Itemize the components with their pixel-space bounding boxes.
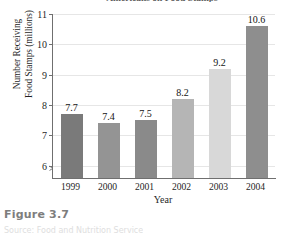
gridline (53, 135, 275, 136)
x-axis-tick-label: 2004 (236, 181, 276, 192)
y-axis-tick-label: 7 (42, 130, 47, 141)
y-axis-tick (49, 44, 53, 45)
bar-value-label: 7.4 (102, 111, 115, 122)
bar-value-label: 7.5 (139, 108, 152, 119)
y-axis-tick-label: 8 (42, 100, 47, 111)
bar: 8.2 (172, 99, 194, 178)
gridline (53, 105, 275, 106)
bar: 7.4 (98, 123, 120, 178)
x-axis-line (52, 178, 276, 179)
x-axis-tick-label: 2000 (88, 181, 128, 192)
bar: 7.7 (61, 114, 83, 178)
y-axis-tick-label: 10 (37, 39, 47, 50)
gridline (53, 14, 275, 15)
x-axis-tick-label: 2002 (162, 181, 202, 192)
bar-value-label: 9.2 (213, 57, 226, 68)
plot-area: 678910117.77.47.58.29.210.6 (52, 14, 275, 178)
y-axis-tick-label: 6 (42, 160, 47, 171)
figure-caption: Figure 3.7 (4, 208, 69, 221)
chart-title: Americans on Food Stamps (52, 0, 272, 2)
figure-container: Americans on Food Stamps Number Receivin… (0, 0, 281, 235)
y-axis-tick (49, 105, 53, 106)
y-axis-tick (49, 135, 53, 136)
x-axis-tick-label: 2001 (125, 181, 165, 192)
bar: 10.6 (246, 26, 268, 178)
y-axis-tick-label: 9 (42, 69, 47, 80)
x-axis-tick-label: 2003 (199, 181, 239, 192)
y-axis-title-line1: Number Receiving (12, 0, 24, 124)
y-axis-tick (49, 166, 53, 167)
bar-value-label: 10.6 (248, 14, 266, 25)
x-axis-tick-label: 1999 (51, 181, 91, 192)
bar: 9.2 (209, 69, 231, 178)
gridline (53, 44, 275, 45)
y-axis-title: Number Receiving Food Stamps (millions) (12, 0, 36, 124)
y-axis-title-line2: Food Stamps (millions) (24, 0, 36, 124)
y-axis-tick-label: 11 (37, 9, 47, 20)
figure-subcaption: Source: Food and Nutrition Service (4, 226, 143, 234)
bar: 7.5 (135, 120, 157, 178)
y-axis-tick (49, 75, 53, 76)
gridline (53, 75, 275, 76)
bar-value-label: 8.2 (176, 87, 189, 98)
y-axis-tick (49, 14, 53, 15)
gridline (53, 166, 275, 167)
bar-value-label: 7.7 (65, 102, 78, 113)
x-axis-title: Year (52, 194, 274, 205)
